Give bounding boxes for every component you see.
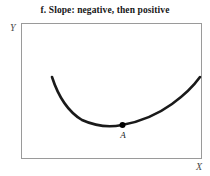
x-axis-label: X — [196, 161, 202, 172]
point-a-label: A — [117, 130, 129, 140]
point-a-marker — [120, 122, 126, 128]
curve-path — [52, 77, 200, 126]
y-axis-label: Y — [10, 22, 16, 33]
chart-figure: f. Slope: negative, then positive Y X A — [0, 0, 210, 176]
curve-graphic — [0, 0, 210, 176]
